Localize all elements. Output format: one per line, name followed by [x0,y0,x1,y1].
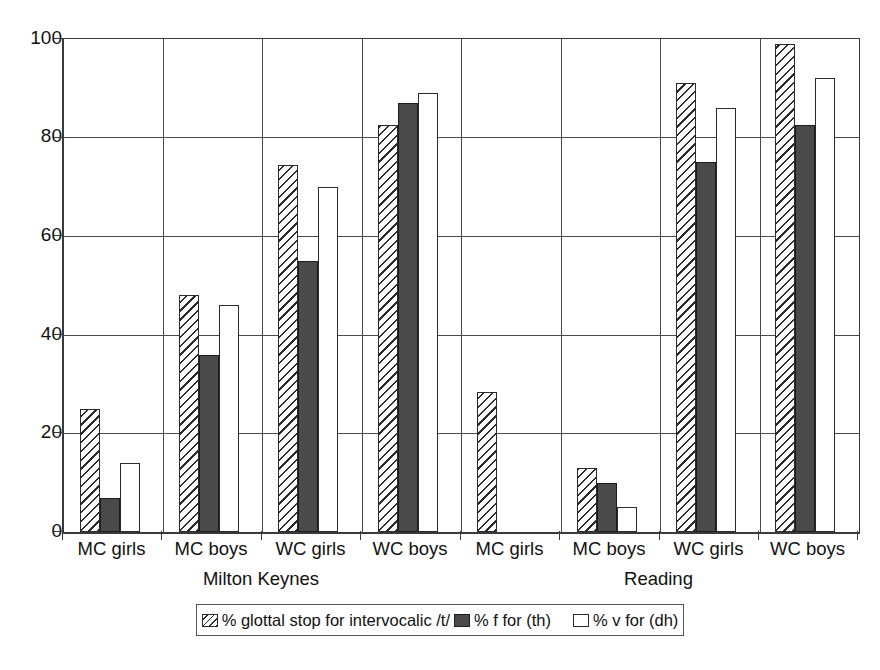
x-category-label-rd-mc-girls: MC girls [460,538,559,560]
plot-area [62,38,860,534]
legend-item-glottal-stop: % glottal stop for intervocalic /t/ [202,611,450,630]
x-group-label-milton-keynes: Milton Keynes [62,568,460,590]
bar-glottal-stop-1 [179,295,199,532]
legend-label-v-for-dh: % v for (dh) [593,611,678,630]
x-category-label-rd-mc-boys: MC boys [559,538,659,560]
bar-glottal-stop-3 [378,125,398,532]
category-separator-5 [561,39,562,532]
bar-v-for-dh-0 [120,463,140,532]
bar-f-for-th-7 [795,125,815,532]
bar-f-for-th-3 [398,103,418,532]
bar-f-for-th-1 [199,355,219,532]
legend-label-glottal-stop: % glottal stop for intervocalic /t/ [222,611,450,630]
x-tick-mark-8 [857,531,858,540]
x-group-label-reading: Reading [460,568,857,590]
x-category-label-rd-wc-girls: WC girls [659,538,758,560]
y-tick-label-80: 80 [16,126,62,145]
solid-dark-swatch-icon [454,614,470,627]
x-category-label-mk-mc-girls: MC girls [62,538,161,560]
category-separator-1 [163,39,164,532]
category-separator-4 [461,39,462,532]
category-separator-2 [262,39,263,532]
y-axis: 100 80 60 40 20 0 [0,0,62,531]
bar-v-for-dh-5 [617,507,637,532]
hatched-swatch-icon [202,614,218,627]
x-category-label-mk-wc-boys: WC boys [360,538,460,560]
bar-f-for-th-0 [100,498,120,533]
open-white-swatch-icon [573,614,589,627]
bar-f-for-th-5 [597,483,617,532]
legend-item-v-for-dh: % v for (dh) [573,611,678,630]
bar-v-for-dh-6 [716,108,736,532]
bar-chart: 100 80 60 40 20 0 MC [0,0,880,670]
legend-label-f-for-th: % f for (th) [474,611,551,630]
bar-glottal-stop-6 [676,83,696,532]
bar-v-for-dh-2 [318,187,338,532]
bar-v-for-dh-7 [815,78,835,532]
bar-v-for-dh-3 [418,93,438,532]
category-separator-3 [362,39,363,532]
chart-legend: % glottal stop for intervocalic /t/ % f … [196,604,684,636]
bar-glottal-stop-5 [577,468,597,532]
bar-v-for-dh-1 [219,305,239,532]
bar-glottal-stop-0 [80,409,100,532]
category-separator-7 [760,39,761,532]
bar-glottal-stop-4 [477,392,497,533]
bar-f-for-th-2 [298,261,318,532]
bar-glottal-stop-2 [278,165,298,532]
bar-f-for-th-6 [696,162,716,532]
x-category-label-mk-mc-boys: MC boys [161,538,261,560]
category-separator-6 [660,39,661,532]
x-category-label-mk-wc-girls: WC girls [261,538,360,560]
x-category-label-rd-wc-boys: WC boys [758,538,857,560]
bar-glottal-stop-7 [775,44,795,532]
legend-item-f-for-th: % f for (th) [454,611,551,630]
